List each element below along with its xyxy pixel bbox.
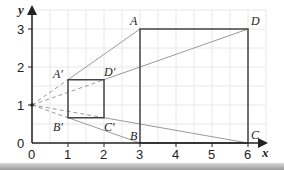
label-d: D [250, 14, 260, 28]
y-tick-3: 3 [17, 22, 24, 37]
y-tick-0: 0 [17, 136, 24, 151]
label-a: A [129, 14, 138, 28]
x-tick-5: 5 [208, 147, 215, 162]
grid [32, 10, 266, 143]
y-tick-1: 1 [17, 98, 24, 113]
x-axis-label: x [261, 145, 269, 160]
centre-point [30, 103, 34, 107]
x-tick-2: 2 [100, 147, 107, 162]
label-b: B [130, 129, 138, 143]
label-a-prime: A′ [52, 67, 63, 81]
x-tick-3: 3 [136, 147, 143, 162]
label-c: C [251, 128, 260, 142]
x-tick-1: 1 [64, 147, 71, 162]
x-tick-6: 6 [244, 147, 251, 162]
y-tick-2: 2 [17, 60, 24, 75]
x-tick-0: 0 [28, 147, 35, 162]
label-c-prime: C′ [104, 120, 115, 134]
bottom-shadow-bar [0, 163, 284, 170]
enlargement-diagram: 0 1 2 3 4 5 6 0 1 2 3 x y A D B C A′ D′ … [0, 0, 284, 170]
label-b-prime: B′ [53, 120, 63, 134]
y-axis-label: y [16, 2, 24, 17]
axes [32, 12, 260, 143]
label-d-prime: D′ [103, 65, 116, 79]
x-tick-4: 4 [172, 147, 179, 162]
